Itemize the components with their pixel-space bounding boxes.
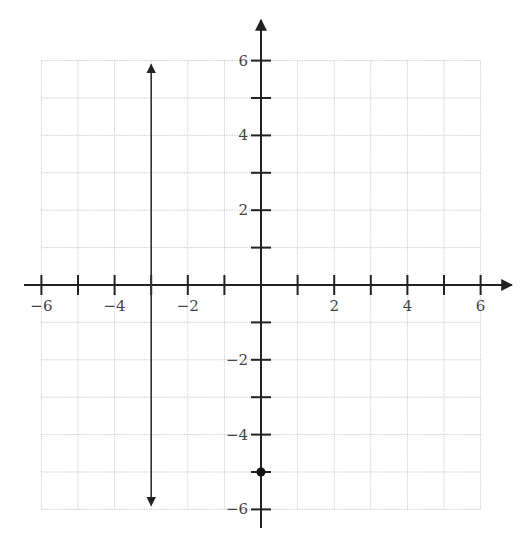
- y-tick-label: −2: [226, 351, 248, 369]
- x-tick-label: −6: [30, 297, 52, 315]
- y-tick-label: 4: [238, 126, 248, 144]
- x-tick-label: −2: [177, 297, 199, 315]
- y-tick-label: −4: [226, 426, 248, 444]
- axes: [24, 20, 512, 528]
- y-tick-label: −6: [226, 500, 248, 518]
- x-tick-label: 4: [403, 297, 413, 315]
- x-tick-label: 2: [329, 297, 339, 315]
- x-tick-label: −4: [104, 297, 126, 315]
- y-tick-label: 2: [238, 201, 248, 219]
- coordinate-plane: −6−4−2246 642−2−4−6: [0, 0, 525, 553]
- x-tick-label: 6: [476, 297, 486, 315]
- x-tick-labels: −6−4−2246: [30, 297, 485, 315]
- plotted-point: [257, 468, 266, 477]
- y-tick-label: 6: [238, 52, 248, 70]
